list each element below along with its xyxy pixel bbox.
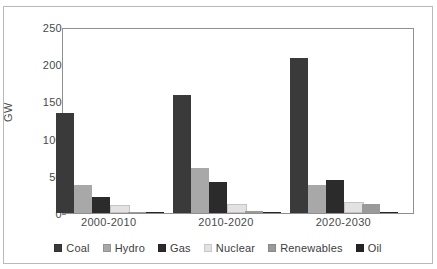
bar-nuclear — [344, 202, 364, 213]
bar-renewables — [245, 211, 263, 213]
legend-label: Renewables — [280, 242, 343, 254]
legend-item-renewables[interactable]: Renewables — [268, 242, 343, 254]
legend-label: Coal — [66, 242, 89, 254]
y-axis-title: GW — [2, 102, 14, 122]
bar-oil — [146, 212, 164, 213]
legend-swatch-renewables — [268, 244, 276, 252]
bar-group — [173, 29, 281, 213]
bar-coal — [173, 95, 191, 213]
legend-swatch-hydro — [103, 244, 111, 252]
legend-label: Hydro — [115, 242, 145, 254]
bar-gas — [209, 182, 227, 213]
x-axis-tick-label: 2000-2010 — [81, 216, 136, 228]
legend-swatch-gas — [158, 244, 166, 252]
bar-nuclear — [110, 205, 130, 213]
bar-nuclear — [227, 204, 247, 213]
x-axis-tick-label: 2010-2020 — [198, 216, 253, 228]
bar-hydro — [74, 185, 92, 213]
chart-page: GW 050100150200250 2000-20102010-2020202… — [0, 0, 437, 269]
bar-group — [290, 29, 398, 213]
legend-swatch-oil — [356, 244, 364, 252]
bar-renewables — [362, 204, 380, 213]
clipped-top-text — [38, 0, 398, 2]
legend-label: Gas — [170, 242, 191, 254]
legend-item-coal[interactable]: Coal — [54, 242, 89, 254]
y-axis-tick-mark — [62, 214, 66, 215]
bar-oil — [263, 212, 281, 213]
bar-coal — [290, 58, 308, 213]
bar-coal — [56, 113, 74, 213]
plot-area — [62, 28, 414, 214]
legend-label: Nuclear — [216, 242, 255, 254]
legend-swatch-nuclear — [204, 244, 212, 252]
bar-gas — [92, 197, 110, 213]
bar-renewables — [128, 212, 146, 213]
bar-oil — [380, 212, 398, 213]
legend-label: Oil — [368, 242, 382, 254]
legend-swatch-coal — [54, 244, 62, 252]
legend-item-gas[interactable]: Gas — [158, 242, 191, 254]
bar-hydro — [191, 168, 209, 213]
chart-legend: CoalHydroGasNuclearRenewablesOil — [3, 240, 433, 256]
bar-gas — [326, 180, 344, 213]
bar-hydro — [308, 185, 326, 213]
x-axis-tick-label: 2020-2030 — [316, 216, 371, 228]
bar-group — [56, 29, 164, 213]
bars-layer — [63, 29, 413, 213]
legend-item-hydro[interactable]: Hydro — [103, 242, 145, 254]
legend-item-nuclear[interactable]: Nuclear — [204, 242, 255, 254]
legend-item-oil[interactable]: Oil — [356, 242, 382, 254]
x-axis-labels: 2000-20102010-20202020-2030 — [62, 216, 414, 234]
y-axis: GW 050100150200250 — [10, 28, 62, 214]
